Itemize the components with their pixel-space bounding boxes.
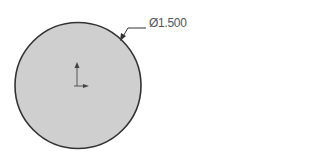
dimension-leader	[120, 28, 146, 41]
diameter-dimension-label[interactable]: Ø1.500	[149, 16, 187, 30]
arrowhead-icon	[120, 33, 126, 41]
